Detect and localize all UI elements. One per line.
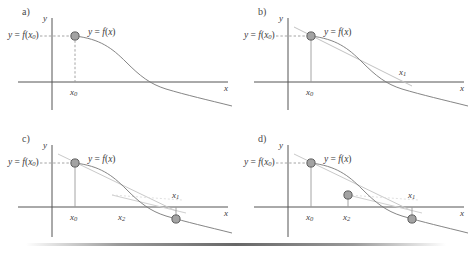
tick-x0-d: x0 [306,213,313,223]
panel-b-plot [236,0,472,127]
tick-x1-b: x1 [399,68,406,78]
y-axis-label-c: y [43,141,47,150]
panel-letter-a: a) [22,7,30,17]
x-axis-label-b: x [460,84,464,93]
y-axis-label-a: y [43,14,47,23]
marker-x2 [344,191,352,199]
panel-a-plot [0,0,236,127]
curve-label-a: y = f(x) [88,28,116,38]
tick-x1-c: x1 [172,191,179,201]
panel-d: d) y x y = f(x0) y = f(x) x0 x2 x1 [236,127,472,254]
tick-x0-b: x0 [306,88,313,98]
panel-letter-d: d) [258,134,266,144]
marker-x0 [307,32,315,40]
marker-x0 [71,159,79,167]
panel-letter-c: c) [22,134,30,144]
y-axis-label-b: y [279,14,283,23]
function-curve [75,36,232,106]
tick-x2-d: x2 [343,213,350,223]
curve-label-b: y = f(x) [324,28,352,38]
bottom-divider-rule [26,243,446,246]
fx0-value-label-a: y = f(x0) [8,31,39,41]
function-curve [311,36,468,106]
marker-x0 [71,32,79,40]
x-axis-label-d: x [460,209,464,218]
curve-label-d: y = f(x) [324,155,352,165]
tick-x1-d: x1 [408,191,415,201]
tick-x0-c: x0 [70,213,77,223]
fx0-value-label-c: y = f(x0) [8,158,39,168]
fx0-value-label-d: y = f(x0) [244,158,275,168]
x-axis-label-a: x [224,84,228,93]
panel-c: c) y x y = f(x0) y = f(x) x0 x2 x1 [0,127,236,254]
tick-x0-a: x0 [70,88,77,98]
marker-x1 [172,215,180,223]
panel-c-plot [0,127,236,254]
panel-a: a) y x y = f(x0) y = f(x) x0 [0,0,236,127]
panel-d-plot [236,127,472,254]
marker-x0 [307,159,315,167]
fx0-value-label-b: y = f(x0) [244,31,275,41]
y-axis-label-d: y [279,141,283,150]
curve-label-c: y = f(x) [88,155,116,165]
x-axis-label-c: x [224,209,228,218]
marker-x1 [408,215,416,223]
panel-letter-b: b) [258,7,266,17]
newton-method-figure: a) y x y = f(x0) y = f(x) x0 b) y x y = … [0,0,472,254]
panel-b: b) y x y = f(x0) y = f(x) x0 x1 [236,0,472,127]
tick-x2-c: x2 [118,213,125,223]
